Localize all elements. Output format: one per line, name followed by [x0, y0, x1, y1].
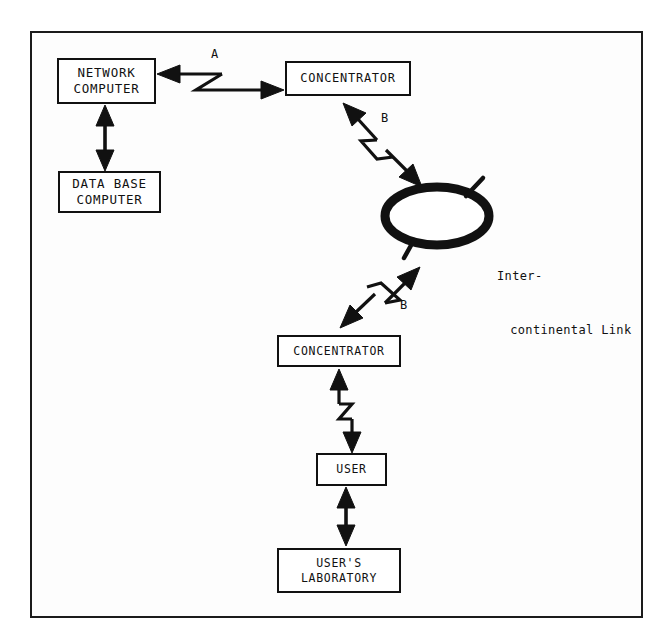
node-network-computer-line1: NETWORK	[78, 65, 136, 81]
node-users-laboratory-line1: USER'S	[316, 556, 362, 571]
node-satellite-label: SATELLITE	[374, 176, 500, 264]
annotation-intercontinental-line1: Inter-	[497, 267, 632, 285]
node-database-computer: DATA BASE COMPUTER	[58, 171, 161, 213]
node-users-laboratory: USER'S LABORATORY	[277, 548, 401, 593]
node-users-laboratory-line2: LABORATORY	[301, 571, 377, 586]
link-label-a: A	[211, 47, 218, 61]
node-database-computer-line2: COMPUTER	[76, 192, 142, 208]
node-database-computer-line1: DATA BASE	[72, 176, 146, 192]
link-label-b-lower: B	[400, 298, 407, 312]
node-network-computer: NETWORK COMPUTER	[57, 58, 156, 104]
node-concentrator-bottom-label: CONCENTRATOR	[293, 344, 384, 359]
node-user: USER	[316, 453, 387, 486]
node-concentrator-bottom: CONCENTRATOR	[277, 335, 401, 367]
node-satellite: SATELLITE	[374, 176, 500, 264]
diagram-canvas: NETWORK COMPUTER DATA BASE COMPUTER CONC…	[0, 0, 665, 642]
node-user-label: USER	[336, 462, 366, 477]
node-network-computer-line2: COMPUTER	[73, 81, 139, 97]
node-concentrator-top: CONCENTRATOR	[285, 61, 411, 96]
node-concentrator-top-label: CONCENTRATOR	[300, 71, 395, 86]
annotation-intercontinental-line2: continental Link	[497, 321, 632, 339]
annotation-intercontinental-link: Inter- continental Link	[497, 231, 632, 375]
link-label-b-upper: B	[381, 111, 388, 125]
